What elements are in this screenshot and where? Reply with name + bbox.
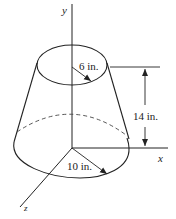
bottom-ellipse-front [14,138,129,178]
frustum-diagram: y x z 6 in. 10 in. 14 in. [0,0,176,219]
top-radius-label: 6 in. [79,60,99,72]
left-slant-edge [14,63,37,142]
bottom-radius-label: 10 in. [67,160,92,172]
height-label: 14 in. [133,110,158,122]
x-axis-label: x [157,152,163,164]
z-axis-label: z [23,203,28,213]
y-axis-label: y [61,4,67,16]
right-slant-edge [107,63,129,139]
frustum [14,45,129,178]
height-dimension [110,67,160,146]
